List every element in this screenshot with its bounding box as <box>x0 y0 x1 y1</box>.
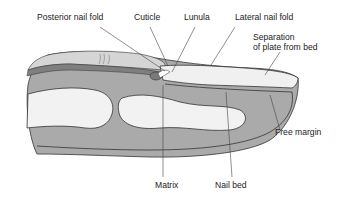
label-lateral-nail-fold: Lateral nail fold <box>235 12 293 22</box>
label-posterior-nail-fold: Posterior nail fold <box>37 12 103 22</box>
label-separation-line2: of plate from bed <box>253 42 333 52</box>
label-free-margin: Free margin <box>275 127 321 137</box>
label-cuticle: Cuticle <box>134 12 160 22</box>
label-separation-line1: Separation <box>253 32 333 42</box>
label-separation-of-plate-from-bed: Separation of plate from bed <box>253 32 333 52</box>
nail-anatomy-diagram <box>0 0 337 198</box>
label-nail-bed: Nail bed <box>215 180 247 190</box>
label-lunula: Lunula <box>184 12 210 22</box>
middle-phalanx-bone <box>27 88 113 128</box>
leader-lateral-nail-fold <box>211 27 235 65</box>
label-matrix: Matrix <box>155 180 178 190</box>
